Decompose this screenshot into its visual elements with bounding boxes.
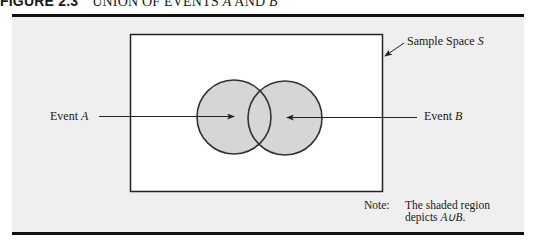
sample-space-arrow bbox=[385, 43, 404, 56]
event-b-var: B bbox=[455, 109, 462, 123]
note-label: Note: bbox=[364, 199, 390, 211]
event-b-text: Event bbox=[424, 109, 455, 123]
note-line-1: The shaded region bbox=[405, 199, 490, 211]
note-line-2-prefix: depicts bbox=[405, 211, 440, 223]
event-a-text: Event bbox=[50, 109, 81, 123]
note-line-2-suffix: . bbox=[463, 211, 466, 223]
union-expression: A∪B bbox=[440, 211, 462, 223]
event-a-var: A bbox=[81, 109, 88, 123]
note-text: The shaded region depicts A∪B. bbox=[405, 199, 490, 223]
sample-space-text: Sample Space bbox=[407, 34, 478, 48]
sample-space-label: Sample Space S bbox=[407, 34, 484, 49]
note-line-2: depicts A∪B. bbox=[405, 211, 490, 223]
event-b-label: Event B bbox=[424, 109, 462, 124]
event-a-label: Event A bbox=[50, 109, 88, 124]
sample-space-var: S bbox=[478, 34, 484, 48]
